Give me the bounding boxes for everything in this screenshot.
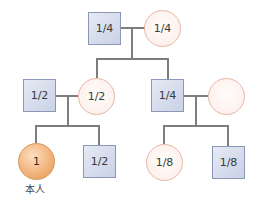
cousin-female-value: 1/8 (156, 156, 174, 169)
grandmother-value: 1/4 (154, 22, 172, 35)
drop-to-cousin-male (227, 125, 229, 146)
cousin-male-value: 1/8 (220, 156, 238, 169)
self-node: 1 (18, 143, 55, 180)
drop-to-cousin-female (163, 125, 165, 144)
grandmother-node: 1/4 (144, 10, 181, 47)
grandfather-value: 1/4 (96, 22, 114, 35)
sibship-line-cousins (163, 125, 229, 127)
sibship-line-self (35, 125, 100, 127)
cousin-female-node: 1/8 (146, 144, 183, 181)
descent-line-uncle (195, 96, 197, 127)
cousin-male-node: 1/8 (212, 146, 245, 179)
drop-to-mother (96, 58, 98, 78)
uncle-value: 1/4 (159, 89, 177, 102)
uncle-node: 1/4 (151, 79, 184, 112)
father-value: 1/2 (31, 89, 49, 102)
self-value: 1 (33, 155, 40, 168)
mother-value: 1/2 (88, 90, 106, 103)
descent-line-parents (67, 96, 69, 127)
brother-node: 1/2 (83, 145, 116, 178)
grandfather-node: 1/4 (88, 12, 121, 45)
pedigree-diagram: 1/4 1/4 1/2 1/2 1/4 1 本人 1/2 1/8 1/8 (0, 0, 258, 201)
mother-node: 1/2 (78, 78, 115, 115)
brother-value: 1/2 (91, 155, 109, 168)
drop-to-brother (98, 125, 100, 146)
father-node: 1/2 (23, 79, 56, 112)
drop-to-self (35, 125, 37, 143)
drop-to-uncle (167, 58, 169, 79)
sibship-line-gen2 (96, 58, 169, 60)
descent-line-grandparents (131, 28, 133, 60)
aunt-in-law-node (208, 78, 245, 115)
self-label: 本人 (25, 181, 45, 196)
